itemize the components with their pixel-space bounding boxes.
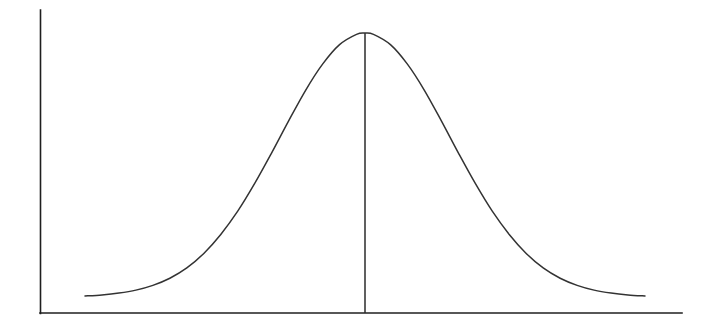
bell-curve-figure [0, 0, 711, 328]
chart-canvas [0, 0, 711, 328]
